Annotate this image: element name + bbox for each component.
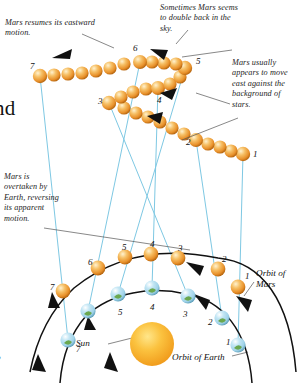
earth-position-label-5: 5 xyxy=(118,308,123,317)
caption-mars-resumes: Mars resumes its eastward motion. xyxy=(5,18,113,39)
cropped-headline-text: nd xyxy=(0,96,16,121)
sky-position-label-2: 2 xyxy=(186,138,191,147)
earth-position-label-4: 4 xyxy=(150,303,155,312)
sky-position-label-5: 5 xyxy=(196,57,201,66)
mars-position-label-2: 2 xyxy=(222,255,227,264)
earth-position-label-7: 7 xyxy=(76,345,81,354)
caption-mars-doubles-back: Sometimes Mars seems to double back in t… xyxy=(160,3,244,34)
mars-position-label-3: 3 xyxy=(178,244,183,253)
earth-position-label-2: 2 xyxy=(208,318,213,327)
sky-position-label-6: 6 xyxy=(133,44,138,53)
sky-position-label-3: 3 xyxy=(98,97,103,106)
earth-position-label-1: 1 xyxy=(226,338,231,347)
sky-track-beads xyxy=(33,55,250,161)
retrograde-motion-diagram: Mars resumes its eastward motion. Someti… xyxy=(0,0,301,383)
label-orbit-of-earth: Orbit of Earth xyxy=(172,352,225,363)
sky-position-label-1: 1 xyxy=(253,150,258,159)
leader-lines xyxy=(44,30,254,356)
label-orbit-of-mars: Orbit of Mars xyxy=(256,268,300,290)
earth-position-label-3: 3 xyxy=(183,310,188,319)
caption-mars-overtaken: Mars is overtaken by Earth, reversing it… xyxy=(4,172,64,224)
sightlines-group xyxy=(40,62,243,345)
mars-position-label-5: 5 xyxy=(122,243,127,252)
cropped-side-text: o xyxy=(0,352,1,362)
sky-position-label-4: 4 xyxy=(157,96,162,105)
mars-position-label-6: 6 xyxy=(88,258,93,267)
caption-mars-moves-east: Mars usually appears to move east agains… xyxy=(232,58,300,110)
earth-position-label-6: 6 xyxy=(86,322,91,331)
sightline-1 xyxy=(238,154,243,345)
mars-position-label-4: 4 xyxy=(150,240,155,249)
mars-position-label-7: 7 xyxy=(50,283,55,292)
sky-position-label-7: 7 xyxy=(30,62,35,71)
sun-body xyxy=(130,322,174,366)
sightline-2 xyxy=(196,140,222,318)
mars-position-label-1: 1 xyxy=(245,272,250,281)
